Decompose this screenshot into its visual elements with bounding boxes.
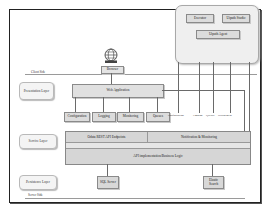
odata-endpoints-label: Odata REST API Endpoints [88, 135, 126, 139]
agent-link-label-deployment: Deployment [218, 114, 232, 117]
webapp-notification-connector-v [244, 90, 245, 131]
agent-link-queues [213, 62, 214, 113]
agent-notification-connector [249, 62, 250, 131]
module-configuration-label: Configuration [67, 115, 86, 119]
web-application-box: Web Application [72, 84, 164, 98]
webapp-notification-connector-h [162, 90, 244, 91]
odata-endpoints-cell: Odata REST API Endpoints [66, 132, 148, 142]
module-logging: Logging [92, 112, 116, 122]
elastic-connector [212, 164, 213, 176]
agent-link-configuration [178, 62, 179, 113]
module-configuration: Configuration [64, 112, 90, 122]
sql-server-box: SQL Server [97, 176, 119, 189]
notification-cell: Notification & Monitoring [148, 132, 250, 142]
agent-box: Uipath Agent [196, 30, 240, 39]
connector-queues [157, 97, 158, 112]
module-monitoring: Monitoring [117, 112, 144, 122]
business-logic-row: API implementation/Business Logic [66, 149, 250, 163]
module-queues: Queues [146, 112, 170, 122]
service-top-row: Odata REST API Endpoints Notification & … [66, 132, 250, 143]
browser-box: Browser [101, 66, 124, 74]
service-layer-block: Odata REST API Endpoints Notification & … [65, 131, 251, 165]
client-side-label: Client Side [31, 70, 45, 74]
elastic-search-box: Elastic Search [203, 176, 224, 189]
service-layer-label: Service Layer [19, 134, 57, 149]
module-monitoring-label: Monitoring [123, 115, 138, 119]
agent-link-deployment [230, 62, 231, 113]
connector-logging [103, 97, 104, 112]
persistence-layer-label: Persistence Layer [19, 175, 57, 190]
agent-link-logging [199, 62, 200, 113]
globe-icon [103, 48, 119, 64]
service-layer-text: Service Layer [29, 139, 48, 143]
browser-label: Browser [107, 68, 119, 72]
executor-label: Executor [194, 17, 206, 21]
agent-link-label-logging: Logging [193, 114, 202, 117]
persistence-layer-text: Persistence Layer [26, 180, 50, 184]
agent-link-label-queues: Queues [206, 114, 214, 117]
sql-server-label: SQL Server [100, 181, 116, 185]
client-side-divider [25, 74, 257, 75]
web-application-label: Web Application [107, 89, 130, 93]
module-queues-label: Queues [153, 115, 163, 119]
presentation-layer-label: Presentation Layer [19, 82, 54, 100]
agent-label: Uipath Agent [209, 33, 227, 37]
elastic-search-label: Elastic Search [204, 179, 223, 186]
sql-connector [107, 164, 108, 176]
studio-box: Uipath Studio [222, 14, 250, 23]
presentation-layer-text: Presentation Layer [24, 89, 50, 93]
server-side-label: Server Side [28, 193, 43, 197]
notification-label: Notification & Monitoring [181, 135, 217, 139]
agent-link-label-configuration: Configuration [168, 114, 184, 117]
studio-label: Uipath Studio [227, 17, 246, 21]
connector-monitoring [129, 97, 130, 112]
browser-webapp-connector [111, 73, 112, 84]
connector-configuration [75, 97, 76, 112]
module-logging-label: Logging [98, 115, 110, 119]
client-group: Executor Uipath Studio Uipath Agent [175, 5, 259, 64]
server-side-divider [25, 198, 245, 199]
business-logic-label: API implementation/Business Logic [133, 154, 182, 158]
executor-box: Executor [186, 14, 214, 23]
